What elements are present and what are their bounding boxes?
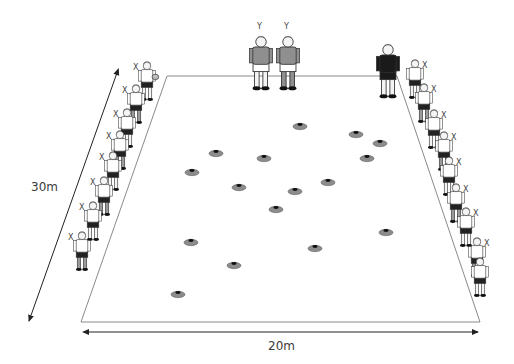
drill-diagram: 20m 30m YYXXXXXXXXXXXXXXXX xyxy=(0,0,514,364)
cone xyxy=(308,245,322,252)
cone xyxy=(360,155,374,162)
attacker-marker: X xyxy=(79,203,84,212)
attacker-marker: X xyxy=(451,133,456,142)
attacker-marker: X xyxy=(90,178,95,187)
cone xyxy=(321,179,335,186)
attacker-marker: X xyxy=(463,185,468,194)
cone xyxy=(269,206,283,213)
attacker-marker: X xyxy=(113,110,118,119)
attacker-marker: X xyxy=(456,158,461,167)
attacker-left-line xyxy=(74,232,91,271)
width-label: 20m xyxy=(268,339,295,353)
cone xyxy=(288,188,302,195)
cone xyxy=(232,184,246,191)
attacker-marker: X xyxy=(441,111,446,120)
attacker-marker: X xyxy=(68,233,73,242)
cone xyxy=(184,239,198,246)
attacker-marker: X xyxy=(473,209,478,218)
attacker-left-line xyxy=(85,202,102,241)
defender-player xyxy=(276,36,299,90)
ball-icon xyxy=(152,74,159,79)
attacker-marker: X xyxy=(484,239,489,248)
diagram-canvas xyxy=(0,0,514,364)
cone xyxy=(349,131,363,138)
attacker-marker: X xyxy=(422,61,427,70)
defender-marker: Y xyxy=(284,22,289,31)
cone xyxy=(293,123,307,130)
cone xyxy=(373,140,387,147)
cone-group xyxy=(171,123,393,298)
coach-figure xyxy=(376,44,399,98)
cone xyxy=(185,169,199,176)
defender-player xyxy=(249,36,272,90)
cone xyxy=(379,229,393,236)
length-label: 30m xyxy=(31,180,58,194)
cone xyxy=(209,150,223,157)
attacker-marker: X xyxy=(133,63,138,72)
attacker-marker: X xyxy=(99,153,104,162)
attacker-marker: X xyxy=(122,86,127,95)
defender-marker: Y xyxy=(257,22,262,31)
cone xyxy=(257,155,271,162)
cone xyxy=(227,262,241,269)
attacker-marker: X xyxy=(431,85,436,94)
attacker-marker: X xyxy=(106,132,111,141)
cone xyxy=(171,291,185,298)
